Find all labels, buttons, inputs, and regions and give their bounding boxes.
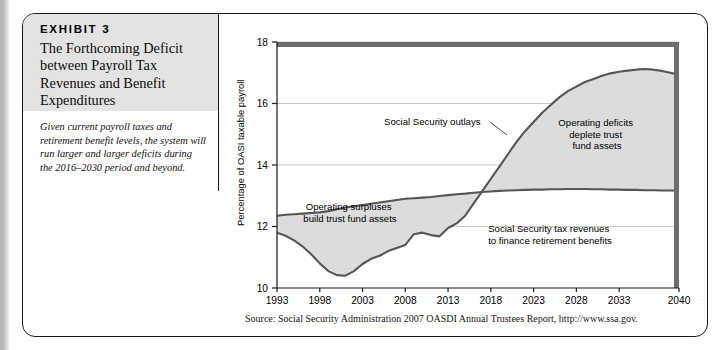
annotation-outlays: Social Security outlays <box>384 116 481 127</box>
svg-text:2028: 2028 <box>565 295 588 306</box>
page-scan-edge-dark <box>0 0 3 350</box>
annotation-surpluses: Operating surpluses build trust fund ass… <box>303 201 397 224</box>
exhibit-title: The Forthcoming Deficit between Payroll … <box>40 40 212 110</box>
svg-text:16: 16 <box>257 98 269 109</box>
svg-text:10: 10 <box>257 283 269 294</box>
annotation-tax-revenues: Social Security tax revenues to finance … <box>488 223 612 246</box>
deficit-area-chart: 1012141618 19931998200320082013201820232… <box>232 26 694 308</box>
svg-text:2023: 2023 <box>522 295 545 306</box>
svg-text:2003: 2003 <box>351 295 374 306</box>
x-axis-ticks: 1993199820032008201320182023202820332040 <box>266 288 691 306</box>
y-axis-title: Percentage of OASI taxable payroll <box>235 80 246 226</box>
svg-text:2033: 2033 <box>608 295 631 306</box>
svg-text:14: 14 <box>257 160 269 171</box>
svg-text:1998: 1998 <box>308 295 331 306</box>
surplus-deficit-band <box>277 69 679 276</box>
svg-text:18: 18 <box>257 37 269 48</box>
plot-frame-top <box>277 42 679 47</box>
annotation-outlays-leader-line <box>490 122 507 135</box>
y-axis-ticks: 1012141618 <box>257 37 277 294</box>
svg-text:1993: 1993 <box>266 295 289 306</box>
svg-text:2040: 2040 <box>668 295 691 306</box>
chart-container: 1012141618 19931998200320082013201820232… <box>232 26 694 308</box>
exhibit-caption: Given current payroll taxes and retireme… <box>40 120 206 174</box>
svg-text:12: 12 <box>257 221 269 232</box>
source-note: Source: Social Security Administration 2… <box>245 313 638 324</box>
svg-text:2018: 2018 <box>479 295 502 306</box>
svg-text:2008: 2008 <box>394 295 417 306</box>
plot-frame-right <box>674 42 679 288</box>
exhibit-vertical-divider <box>218 14 219 191</box>
exhibit-label: EXHIBIT 3 <box>40 23 110 35</box>
svg-text:2013: 2013 <box>437 295 460 306</box>
